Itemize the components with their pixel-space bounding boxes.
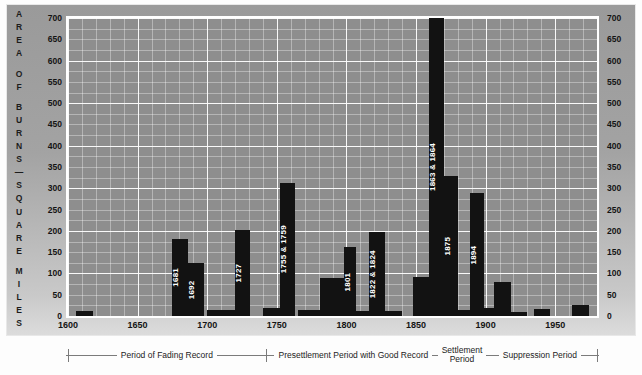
y-tick-label: 250	[604, 205, 634, 215]
y-caption-letter: S	[16, 155, 22, 164]
x-tick-label: 1850	[406, 320, 426, 330]
bar-label: 1681	[172, 242, 187, 313]
x-tick-label: 1600	[58, 320, 78, 330]
period-segment: Presettlement Period with Good Record	[266, 341, 441, 369]
y-axis-right-ticks: 0501001502002503003504004505005506006507…	[604, 16, 634, 318]
y-tick-label: 500	[32, 98, 62, 108]
x-tick-label: 1650	[128, 320, 148, 330]
period-label: Suppression Period	[499, 351, 581, 360]
gridline-vertical	[416, 18, 417, 316]
gridline-vertical	[221, 18, 222, 316]
y-caption-letter: U	[16, 208, 22, 217]
y-tick-label: 300	[32, 183, 62, 193]
period-label: Period of Fading Record	[117, 351, 217, 360]
y-caption-space	[18, 62, 20, 65]
y-caption-space	[18, 260, 20, 263]
gridline-vertical	[583, 18, 584, 316]
y-tick-label: 700	[32, 13, 62, 23]
y-caption-letter: M	[15, 267, 22, 276]
y-caption-letter: E	[16, 36, 22, 45]
bar	[534, 309, 549, 316]
bar	[494, 282, 511, 316]
y-tick-label: 200	[604, 226, 634, 236]
bar	[356, 311, 369, 316]
y-caption-letter: I	[18, 280, 20, 289]
y-caption-letter: R	[16, 23, 22, 32]
gridline-vertical	[124, 18, 125, 316]
y-caption-letter: A	[16, 10, 22, 19]
y-tick-label: 250	[32, 205, 62, 215]
gridline-vertical	[207, 18, 208, 316]
bar-label: 1801	[344, 250, 357, 313]
y-tick-label: 650	[32, 34, 62, 44]
bar-label: 1727	[235, 233, 250, 313]
gridline-vertical	[68, 18, 69, 316]
gridline-vertical	[569, 18, 570, 316]
y-caption-letter: U	[16, 116, 22, 125]
y-caption-letter: E	[16, 306, 22, 315]
y-tick-label: 200	[32, 226, 62, 236]
y-caption-letter: A	[16, 221, 22, 230]
gridline-vertical	[165, 18, 166, 316]
gridline-vertical	[110, 18, 111, 316]
bar	[263, 308, 280, 316]
gridline-vertical	[527, 18, 528, 316]
y-tick-label: 50	[32, 290, 62, 300]
y-caption-letter: N	[16, 142, 22, 151]
gridline-vertical	[319, 18, 320, 316]
y-axis-caption: AREA OF BURNS—SQUARE MILES	[8, 10, 30, 328]
y-tick-label: 450	[604, 119, 634, 129]
y-caption-letter: B	[16, 103, 22, 112]
y-tick-label: 0	[604, 311, 634, 321]
y-tick-label: 550	[604, 77, 634, 87]
y-tick-label: 400	[604, 141, 634, 151]
period-tick	[597, 349, 598, 362]
y-caption-letter: A	[16, 49, 22, 58]
y-tick-label: 500	[604, 98, 634, 108]
y-caption-letter: R	[16, 234, 22, 243]
y-caption-letter: F	[16, 83, 21, 92]
y-tick-label: 350	[604, 162, 634, 172]
y-tick-label: 150	[32, 247, 62, 257]
gridline-vertical	[486, 18, 487, 316]
y-caption-letter: S	[16, 319, 22, 328]
y-tick-label: 150	[604, 247, 634, 257]
gridline-vertical	[555, 18, 556, 316]
x-tick-label: 1900	[476, 320, 496, 330]
y-caption-letter: L	[16, 293, 21, 302]
period-label: Presettlement Period with Good Record	[274, 351, 432, 360]
gridline-vertical	[263, 18, 264, 316]
y-tick-label: 300	[604, 183, 634, 193]
gridline-vertical	[138, 18, 139, 316]
gridline-vertical	[597, 18, 598, 316]
y-caption-letter: S	[16, 181, 22, 190]
period-segment: Period of Fading Record	[68, 341, 266, 369]
gridline-vertical	[500, 18, 501, 316]
x-tick-label: 1800	[336, 320, 356, 330]
y-tick-label: 50	[604, 290, 634, 300]
y-caption-space	[18, 96, 20, 99]
x-tick-label: 1950	[545, 320, 565, 330]
period-tick	[266, 349, 267, 362]
y-tick-label: 600	[32, 56, 62, 66]
bar-label: 1875	[444, 179, 458, 313]
bar	[511, 312, 528, 316]
bar-label: 1692	[188, 266, 205, 313]
y-caption-letter: O	[16, 70, 23, 79]
gridline-vertical	[360, 18, 361, 316]
gridline-vertical	[152, 18, 153, 316]
y-caption-letter: E	[16, 247, 22, 256]
bar	[385, 311, 402, 316]
gridline-vertical	[541, 18, 542, 316]
y-tick-label: 550	[32, 77, 62, 87]
bar	[76, 311, 93, 316]
x-tick-label: 1700	[197, 320, 217, 330]
period-label: Settlement Period	[438, 346, 487, 364]
y-tick-label: 600	[604, 56, 634, 66]
plot-inner: 1681169217271755 & 175918011822 & 182418…	[68, 18, 597, 316]
y-tick-label: 650	[604, 34, 634, 44]
bar	[572, 305, 589, 316]
x-tick-label: 1750	[267, 320, 287, 330]
bar	[298, 310, 320, 316]
bar-label: 1863 & 1864	[429, 21, 444, 313]
